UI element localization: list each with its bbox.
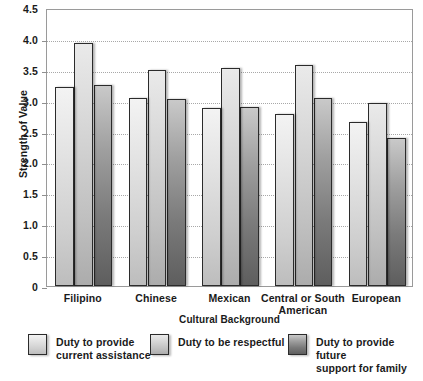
y-tick-label: 4.5 [4, 3, 38, 15]
bar-group [129, 10, 186, 286]
y-tick-mark [42, 288, 47, 289]
legend-label-line: support for family [316, 362, 423, 375]
y-tick-label: 1.5 [4, 188, 38, 200]
bar-group [349, 10, 406, 286]
bar [221, 68, 240, 286]
bar [129, 98, 148, 286]
bar [240, 107, 259, 286]
y-tick-label: 2.5 [4, 127, 38, 139]
bar [202, 108, 221, 286]
legend-swatch [150, 334, 169, 355]
y-tick-label: 1.0 [4, 219, 38, 231]
y-tick-label: 3.0 [4, 96, 38, 108]
bar [349, 122, 368, 286]
y-tick-label: 3.5 [4, 65, 38, 77]
bar [55, 87, 74, 286]
bar-chart-figure: Strength of Value 00.51.01.52.02.53.03.5… [0, 0, 423, 381]
bar [148, 70, 167, 286]
bar [167, 99, 186, 286]
legend-label: Duty to be respectful [178, 334, 285, 349]
legend-item[interactable]: Duty to provide futuresupport for family [288, 334, 423, 375]
bar [387, 138, 406, 286]
bar [74, 43, 93, 286]
y-tick-label: 0.5 [4, 250, 38, 262]
legend-label-line: Duty to provide future [316, 336, 423, 362]
chart-legend: Duty to providecurrent assistanceDuty to… [0, 334, 423, 381]
legend-label-line: current assistance [56, 349, 151, 362]
y-axis-tick-labels: 00.51.01.52.02.53.03.54.04.5 [4, 0, 38, 381]
bar-group [275, 10, 332, 286]
legend-label: Duty to providecurrent assistance [56, 334, 151, 362]
plot-area [46, 9, 413, 287]
legend-item[interactable]: Duty to providecurrent assistance [28, 334, 151, 362]
y-tick-label: 0 [4, 281, 38, 293]
legend-item[interactable]: Duty to be respectful [150, 334, 285, 355]
x-tick-label: European [330, 292, 423, 304]
y-tick-label: 4.0 [4, 34, 38, 46]
bar [295, 65, 314, 286]
bar [275, 114, 294, 286]
legend-label: Duty to provide futuresupport for family [316, 334, 423, 375]
bar-group [202, 10, 259, 286]
bar-groups [47, 10, 412, 286]
bar [94, 85, 113, 286]
legend-swatch [288, 334, 307, 355]
legend-label-line: Duty to be respectful [178, 336, 285, 349]
bar [314, 98, 333, 286]
x-tick-label-line: European [330, 292, 423, 304]
legend-label-line: Duty to provide [56, 336, 151, 349]
legend-swatch [28, 334, 47, 355]
bar [368, 103, 387, 286]
y-tick-label: 2.0 [4, 157, 38, 169]
x-axis-title: Cultural Background [46, 314, 413, 325]
bar-group [55, 10, 112, 286]
